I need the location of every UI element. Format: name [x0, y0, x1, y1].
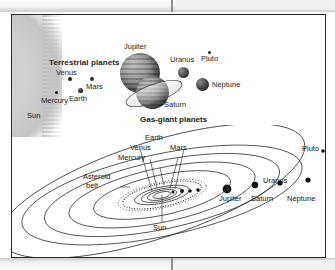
orbit-label-pluto: Pluto	[302, 145, 319, 153]
page-gutter-line-bottom	[171, 258, 173, 270]
orbit-label-earth: Earth	[145, 134, 163, 142]
orbit-label-mars: Mars	[170, 144, 187, 152]
page-margin-bottom-tint	[176, 260, 335, 270]
orbit-label-asteroid-belt-line1: Asteroid	[83, 173, 111, 181]
figure-frame: Terrestrial planets Venus Mars Mercury E…	[11, 14, 326, 258]
orbit-label-sun: Sun	[153, 224, 166, 232]
planet-neptune	[196, 78, 209, 91]
orbit-label-uranus: Uranus	[263, 177, 287, 185]
orbit-label-saturn: Saturn	[251, 195, 273, 203]
figure-page: Terrestrial planets Venus Mars Mercury E…	[0, 0, 335, 270]
label-venus: Venus	[56, 69, 77, 77]
planet-uranus	[178, 67, 189, 78]
orbit-label-neptune: Neptune	[287, 195, 315, 203]
label-jupiter: Jupiter	[124, 43, 147, 51]
group-label-terrestrial: Terrestrial planets	[49, 59, 120, 67]
label-saturn: Saturn	[164, 101, 186, 109]
label-earth: Earth	[69, 95, 87, 103]
orbit-label-mercury: Mercury	[118, 154, 145, 162]
label-mercury: Mercury	[41, 97, 68, 105]
label-neptune: Neptune	[212, 81, 240, 89]
group-label-gas-giant: Gas-giant planets	[140, 116, 207, 124]
page-margin-top-tint	[176, 0, 335, 10]
orbit-diagram	[12, 125, 325, 257]
page-gutter-line-top	[171, 0, 173, 12]
planet-venus-dot	[68, 77, 72, 81]
orbit-label-venus: Venus	[130, 144, 151, 152]
planet-mars-dot	[90, 77, 94, 81]
relative-sizes-panel: Terrestrial planets Venus Mars Mercury E…	[12, 15, 325, 137]
label-uranus: Uranus	[170, 56, 194, 64]
orbit-label-jupiter: Jupiter	[219, 195, 242, 203]
label-sun: Sun	[27, 112, 40, 120]
orbit-label-asteroid-belt-line2: belt	[86, 182, 98, 190]
planet-mercury-dot	[55, 91, 58, 94]
label-mars: Mars	[86, 83, 103, 91]
planet-earth-dot	[78, 88, 83, 93]
label-pluto: Pluto	[201, 55, 218, 63]
orbits-panel: Asteroid belt Mercury Venus Earth Mars S…	[12, 125, 325, 257]
